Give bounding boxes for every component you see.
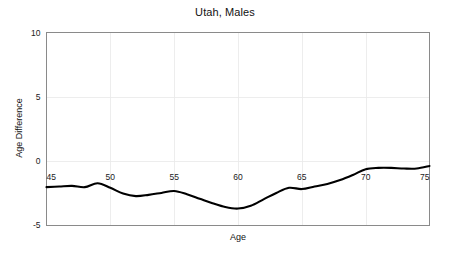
line-chart-plot: 45505560657075 -50510 Age Age Difference (0, 0, 450, 253)
y-tick-label: -5 (33, 220, 41, 230)
y-tick-label: 5 (36, 92, 41, 102)
y-tick-label: 10 (31, 28, 41, 38)
x-tick-label: 75 (420, 172, 430, 182)
y-tick-label: 0 (36, 156, 41, 166)
x-tick-label: 55 (169, 172, 179, 182)
x-tick-label: 60 (233, 172, 243, 182)
x-tick-labels-group: 45505560657075 (47, 172, 430, 182)
x-axis-title: Age (230, 232, 246, 242)
x-tick-label: 70 (361, 172, 371, 182)
gridlines-group (47, 33, 430, 226)
y-tick-labels-group: -50510 (31, 28, 41, 231)
x-tick-label: 65 (297, 172, 307, 182)
y-axis-title: Age Difference (14, 98, 24, 157)
plot-frame (47, 33, 430, 226)
x-tick-label: 45 (47, 172, 57, 182)
x-tick-label: 50 (106, 172, 116, 182)
chart-container: Utah, Males 45505560657075 -50510 Age Ag… (0, 0, 450, 253)
